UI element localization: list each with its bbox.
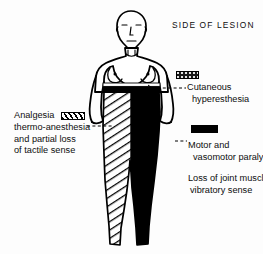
analgesia-line-4: of tactile sense: [14, 145, 90, 157]
hatched-region: [95, 92, 131, 248]
analgesia-line-2: thermo-anesthesia: [14, 122, 90, 134]
stippled-swatch-icon: [176, 71, 199, 79]
annotation-analgesia: Analgesia thermo-anesthesia and partial …: [14, 110, 90, 157]
cutaneous-line-2: hyperesthesia: [192, 94, 249, 106]
annotation-loss: Loss of joint muscle vibratory sense: [188, 173, 263, 197]
solid-black-swatch-icon: [191, 125, 218, 133]
analgesia-line-3: and partial loss: [14, 134, 90, 146]
title-side-of-lesion: SIDE OF LESION: [172, 20, 255, 31]
diagram-canvas: SIDE OF LESION Cutaneous hyperesthesia A…: [0, 0, 263, 254]
annotation-cutaneous: Cutaneous hyperesthesia: [187, 82, 249, 106]
hatched-swatch-icon: [61, 112, 85, 120]
loss-line-2: vibratory sense: [190, 185, 263, 197]
loss-line-1: Loss of joint muscle: [188, 173, 263, 185]
motor-line-1: Motor and: [188, 140, 263, 152]
analgesia-line-1: Analgesia: [14, 110, 54, 122]
cutaneous-line-1: Cutaneous: [187, 82, 249, 94]
head-group: [117, 11, 146, 50]
annotation-motor: Motor and vasomotor paralysis: [188, 140, 263, 164]
motor-line-2: vasomotor paralysis: [193, 152, 263, 164]
solid-black-region: [131, 92, 171, 248]
